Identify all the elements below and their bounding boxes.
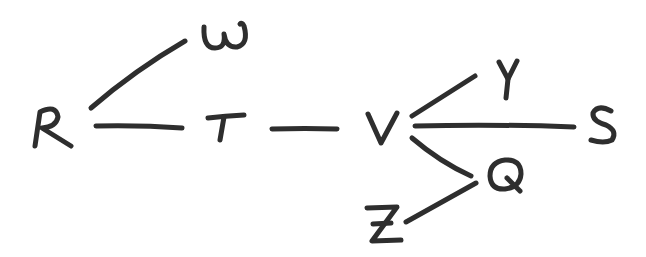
edge-V-Q [412,138,471,176]
node-Z [367,207,401,241]
edge-V-Y [412,76,475,116]
edge-V-S [415,125,574,127]
node-W [204,23,246,48]
edge-Q-Z [406,183,476,222]
diagram-svg [0,0,646,257]
node-Q [490,160,521,191]
edge-R-T [96,126,182,128]
node-Y-stem [506,79,508,98]
node-V [368,113,397,143]
edge-T-V [272,129,337,130]
diagram-canvas: R W T V Y S Q Z [0,0,646,257]
edge-R-W [91,41,185,108]
node-T [208,115,244,140]
node-S [591,108,614,142]
node-R [35,109,71,146]
node-Y [499,61,517,79]
